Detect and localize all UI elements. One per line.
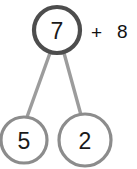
right-part-value: 2 [79,128,92,154]
right-connector-line [64,53,81,115]
plus-operator: + [91,23,102,42]
number-bond-diagram: 7 5 2 + 8 [0,0,137,169]
left-part-value: 5 [18,128,31,154]
left-connector-line [27,53,50,117]
whole-value: 7 [51,18,64,44]
addend-value: 8 [117,22,128,41]
